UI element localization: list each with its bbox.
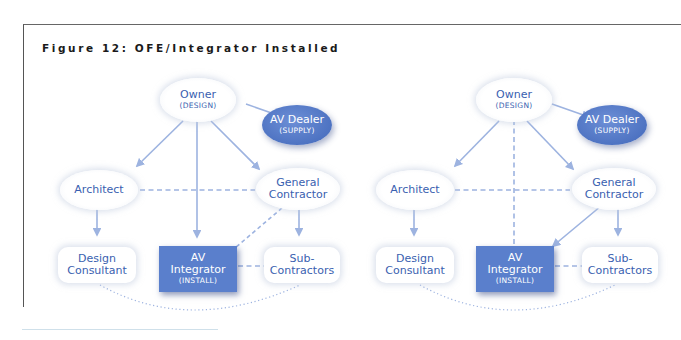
- node-architect: Architect: [60, 170, 138, 210]
- node-sub-contractors: Sub- Contractors: [582, 247, 658, 283]
- node-av-dealer: AV Dealer (SUPPLY): [577, 105, 647, 145]
- node-av-dealer: AV Dealer (SUPPLY): [262, 105, 332, 145]
- node-general-contractor: General Contractor: [572, 168, 656, 210]
- node-design-consultant: Design Consultant: [376, 247, 454, 283]
- node-owner: Owner (DESIGN): [476, 78, 552, 122]
- node-sub-contractors: Sub- Contractors: [264, 247, 340, 283]
- node-design-consultant: Design Consultant: [58, 247, 136, 283]
- node-owner: Owner (DESIGN): [160, 78, 236, 122]
- node-architect: Architect: [376, 170, 454, 210]
- node-av-integrator: AV Integrator (INSTALL): [159, 246, 237, 292]
- node-av-integrator: AV Integrator (INSTALL): [476, 246, 554, 292]
- node-general-contractor: General Contractor: [256, 168, 340, 210]
